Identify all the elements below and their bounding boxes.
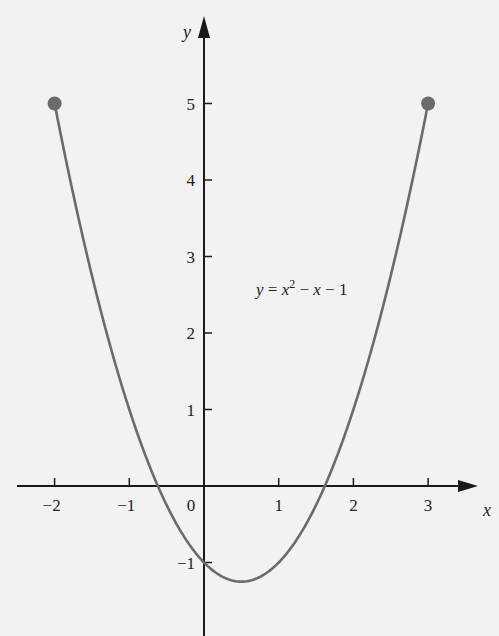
x-tick-label: 3 bbox=[424, 496, 433, 515]
x-axis-label: x bbox=[482, 500, 491, 520]
y-axis-arrow-icon bbox=[198, 16, 210, 38]
x-axis-arrow-icon bbox=[458, 480, 478, 492]
y-tick-label: 2 bbox=[187, 324, 196, 343]
x-tick-label: 1 bbox=[274, 496, 283, 515]
axes bbox=[17, 16, 478, 636]
plot-area: −2−1012312345−1xyy = x2 − x − 1 bbox=[0, 0, 499, 636]
y-tick-label: 3 bbox=[187, 248, 196, 267]
parabola-curve bbox=[55, 104, 429, 582]
x-tick-label: −1 bbox=[117, 496, 135, 515]
x-tick-label: −2 bbox=[43, 496, 61, 515]
y-axis-label: y bbox=[181, 22, 191, 42]
y-tick-label: −1 bbox=[177, 554, 195, 573]
y-tick-label: 5 bbox=[187, 95, 196, 114]
x-tick-label: 2 bbox=[349, 496, 358, 515]
endpoint-markers bbox=[48, 97, 436, 111]
curve-path bbox=[55, 104, 429, 582]
y-tick-label: 4 bbox=[187, 171, 196, 190]
function-graph: −2−1012312345−1xyy = x2 − x − 1 bbox=[0, 0, 499, 636]
x-tick-label: 0 bbox=[187, 496, 196, 515]
y-tick-label: 1 bbox=[187, 401, 196, 420]
endpoint-dot bbox=[421, 97, 435, 111]
endpoint-dot bbox=[48, 97, 62, 111]
equation-label: y = x2 − x − 1 bbox=[254, 277, 347, 299]
